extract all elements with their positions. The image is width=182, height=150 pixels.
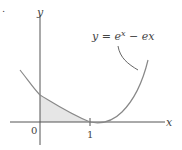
curve-exp-minus-ex (20, 60, 148, 123)
x-axis-label: x (166, 116, 173, 129)
chart-figure: y x 0 1 . y = ex − ex (0, 0, 182, 150)
equation-y: y = e (91, 30, 121, 43)
corner-marker: . (2, 3, 5, 14)
tick-label-1: 1 (87, 129, 93, 140)
equation-rest: − ex (125, 30, 155, 43)
equation-label: y = ex − ex (91, 29, 155, 43)
leader-line (118, 46, 138, 70)
y-axis-label: y (36, 6, 44, 19)
origin-label: 0 (31, 125, 37, 136)
